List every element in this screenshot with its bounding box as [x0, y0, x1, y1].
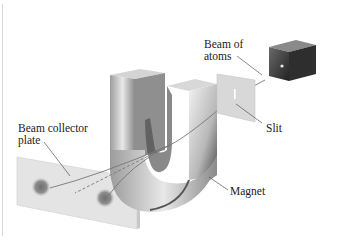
diagram-canvas: Beam of atoms Slit Magnet Beam collector…: [0, 0, 337, 240]
label-beam-collector-2: plate: [18, 134, 40, 146]
label-beam-of-atoms-1: Beam of: [204, 38, 243, 50]
label-beam-collector-1: Beam collector: [18, 122, 88, 134]
slit-plate: [217, 74, 255, 122]
label-magnet: Magnet: [230, 185, 265, 197]
apparatus-illustration: [0, 0, 337, 240]
atom-oven: [269, 40, 316, 81]
label-beam-of-atoms-2: atoms: [204, 50, 231, 62]
slit-opening: [234, 89, 236, 99]
label-slit: Slit: [266, 122, 282, 134]
magnet: [110, 69, 217, 212]
deflected-spot-upper: [31, 177, 51, 197]
oven-aperture: [280, 64, 283, 67]
